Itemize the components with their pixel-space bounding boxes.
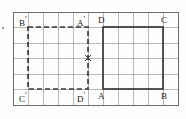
label-A-prime: A′ [77, 16, 85, 28]
label-B-prime: B′ [19, 16, 27, 28]
prime-mark: ′ [25, 15, 27, 24]
prime-mark: ′ [84, 15, 86, 24]
label-D: D [98, 16, 105, 25]
geometry-figure: B′ A′ D C C′ D′ A B [0, 0, 186, 119]
prime-mark: ′ [25, 91, 27, 100]
figure-canvas [0, 0, 186, 119]
prime-mark: ′ [84, 91, 86, 100]
grid-lines [13, 12, 178, 105]
label-B: B [161, 92, 167, 101]
label-C: C [161, 16, 167, 25]
shape-layer [28, 27, 163, 89]
label-A: A [98, 92, 105, 101]
label-C-prime: C′ [19, 92, 27, 104]
label-D-prime: D′ [77, 92, 85, 104]
stray-mark [2, 27, 4, 29]
